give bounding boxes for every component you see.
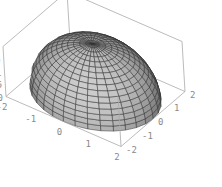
z-tick-label: 1 [0, 68, 2, 78]
y-tick-label: 0 [158, 117, 163, 127]
x-tick-label: -2 [0, 102, 7, 112]
x-tick-label: -1 [25, 114, 36, 124]
x-tick-label: 0 [57, 127, 62, 137]
hemisphere-surface [30, 32, 161, 131]
y-tick-label: -1 [142, 131, 153, 141]
z-tick-label: 1.5 [0, 55, 1, 65]
x-tick-label: 2 [114, 152, 119, 162]
y-tick-label: 1 [174, 103, 179, 113]
x-tick-label: 1 [86, 139, 91, 149]
hemisphere-surface-plot: 00.511.52-2-1012-2-1012 [0, 0, 222, 187]
z-tick-label: 0.5 [0, 80, 2, 90]
y-tick-label: -2 [126, 145, 137, 155]
y-tick-label: 2 [190, 90, 195, 100]
